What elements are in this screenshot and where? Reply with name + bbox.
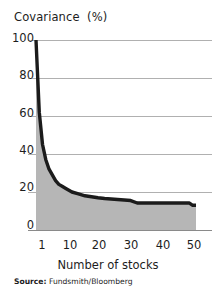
ytick-label-40: 40 [8,145,34,157]
chart-figure: Covariance (%) 100 80 60 40 20 0 1 10 20… [0,0,216,292]
source-value: Fundsmith/Bloomberg [49,277,133,286]
covariance-area-chart [0,32,216,238]
xtick-label-30: 30 [119,240,143,252]
source-label: Source: [14,277,47,286]
ytick-label-60: 60 [8,108,34,120]
xtick-label-40: 40 [151,240,175,252]
ytick-label-20: 20 [8,182,34,194]
data-line [36,40,196,205]
xtick-label-10: 10 [58,240,82,252]
ytick-label-80: 80 [8,70,34,82]
xtick-label-1: 1 [30,240,54,252]
ytick-label-0: 0 [8,220,34,232]
xtick-label-50: 50 [182,240,206,252]
xtick-label-20: 20 [87,240,111,252]
chart-title: Covariance (%) [14,10,107,24]
plot-area [0,32,216,238]
x-axis-title: Number of stocks [0,258,216,272]
ytick-label-100: 100 [8,33,34,45]
source-attribution: Source: Fundsmith/Bloomberg [14,277,132,286]
